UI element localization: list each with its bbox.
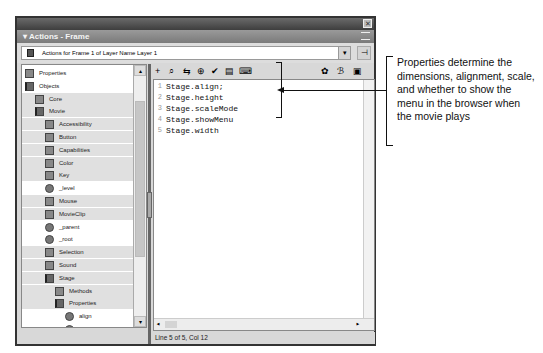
toolbox-item-label: Button (59, 131, 76, 143)
toolbox-item-label: _root (59, 233, 73, 245)
toolbox-item[interactable]: Properties (22, 67, 134, 79)
book-open-icon (45, 274, 54, 283)
scroll-up-icon[interactable]: ▴ (134, 65, 146, 76)
code-line[interactable]: 2Stage.height (154, 92, 354, 103)
add-statement-icon[interactable]: + (155, 64, 160, 78)
toolbox-item-label: Color (59, 157, 73, 169)
panel-menu-icon[interactable] (361, 32, 370, 40)
status-bar: Line 5 of 5, Col 12 (153, 332, 375, 344)
callout-bracket (386, 56, 393, 146)
book-open-icon (35, 107, 44, 116)
toolbox-item[interactable]: _level (22, 182, 134, 194)
toolbox-item-label: MovieClip (59, 208, 85, 220)
auto-format-icon[interactable]: ▤ (225, 64, 234, 78)
toolbox-scrollbar[interactable]: ▴ ▾ (133, 65, 146, 327)
book-closed-icon (45, 146, 54, 155)
code-line[interactable]: 4Stage.showMenu (154, 114, 354, 125)
toolbox-item-label: Key (59, 169, 69, 181)
property-icon (65, 325, 74, 328)
toolbox-item[interactable]: _root (22, 233, 134, 245)
toolbox-scroll-thumb[interactable] (135, 101, 145, 257)
toolbox-item-label: Objects (39, 80, 59, 92)
debug-options-icon[interactable]: ✿ (321, 64, 329, 78)
book-closed-icon (45, 120, 54, 129)
script-editor[interactable]: ◂ ▸ 1Stage.align;2Stage.height3Stage.sca… (153, 79, 375, 331)
scroll-right-icon[interactable]: ▸ (356, 319, 360, 330)
panel-title-bar[interactable]: ▾ Actions - Frame (17, 30, 374, 43)
toolbox-item[interactable]: Stage (22, 272, 134, 284)
code-line[interactable]: 5Stage.width (154, 125, 354, 136)
toolbox-item[interactable]: Properties (22, 297, 134, 309)
editor-vertical-scrollbar[interactable] (363, 80, 374, 318)
book-open-icon (55, 299, 64, 308)
book-closed-icon (55, 287, 64, 296)
pane-splitter[interactable] (148, 64, 151, 344)
book-closed-icon (45, 261, 54, 270)
toolbox-item[interactable]: Objects (22, 80, 134, 92)
toolbox-item[interactable]: Selection (22, 246, 134, 258)
panel-top-bar: ✕ (17, 18, 374, 30)
reference-icon[interactable]: ▣ (353, 64, 362, 78)
toolbox-item-label: Stage (59, 272, 75, 284)
find-icon[interactable]: ⌕ (169, 64, 174, 78)
line-number: 4 (156, 114, 162, 125)
toolbox-item-label: Methods (69, 285, 92, 297)
actions-toolbox: EventswidthshowMenuscaleModeheightalignP… (21, 64, 147, 328)
toolbox-item[interactable]: align (22, 310, 134, 322)
toolbox-item[interactable]: height (22, 323, 134, 328)
toolbox-item-label: Sound (59, 259, 76, 271)
toolbox-item[interactable]: Accessibility (22, 118, 134, 130)
toolbox-item[interactable]: Core (22, 93, 134, 105)
line-number: 2 (156, 92, 162, 103)
toolbox-item-label: Capabilities (59, 144, 90, 156)
scroll-left-icon[interactable]: ◂ (156, 319, 160, 330)
toolbox-item-label: align (79, 310, 92, 322)
toolbox-item[interactable]: Movie (22, 105, 134, 117)
callout-leader-line (282, 90, 387, 91)
toolbox-item-label: Selection (59, 246, 84, 258)
actions-panel: ✕ ▾ Actions - Frame Actions for Frame 1 … (15, 16, 376, 346)
code-text: Stage.showMenu (166, 114, 233, 125)
pin-script-button[interactable]: ⊣ (357, 46, 371, 60)
editor-toolbar: +⌕⇆⊕✔▤⌨✿ℬ▣ (153, 64, 375, 78)
book-closed-icon (45, 133, 54, 142)
code-text: Stage.height (166, 92, 224, 103)
chevron-down-icon[interactable]: ▾ (338, 47, 350, 59)
book-closed-icon (45, 171, 54, 180)
code-hint-icon[interactable]: ⌨ (239, 64, 252, 78)
book-closed-icon (45, 197, 54, 206)
toolbox-item[interactable]: Key (22, 169, 134, 181)
toolbox-item[interactable]: Sound (22, 259, 134, 271)
line-number: 3 (156, 103, 162, 114)
toolbox-item-label: Movie (49, 105, 65, 117)
toolbox-item[interactable]: _parent (22, 221, 134, 233)
close-icon[interactable]: ✕ (363, 19, 372, 28)
toolbox-item[interactable]: Color (22, 157, 134, 169)
code-text: Stage.align; (166, 81, 224, 92)
property-icon (45, 223, 54, 232)
editor-horizontal-scrollbar[interactable]: ◂ ▸ (154, 318, 374, 330)
toolbox-item[interactable]: Capabilities (22, 144, 134, 156)
replace-icon[interactable]: ⇆ (183, 64, 191, 78)
toolbox-item[interactable]: Mouse (22, 195, 134, 207)
toolbox-item-label: height (79, 323, 95, 328)
target-path-icon[interactable]: ⊕ (197, 64, 205, 78)
property-icon (45, 184, 54, 193)
check-syntax-icon[interactable]: ✔ (211, 64, 219, 78)
book-closed-icon (45, 248, 54, 257)
view-options-icon[interactable]: ℬ (337, 64, 344, 78)
splitter-grip[interactable] (147, 192, 152, 218)
toolbox-item[interactable]: Methods (22, 285, 134, 297)
toolbox-item-label: _parent (59, 221, 79, 233)
code-text: Stage.scaleMode (166, 103, 238, 114)
toolbox-item-label: Core (49, 93, 62, 105)
toolbox-item[interactable]: MovieClip (22, 208, 134, 220)
editor-hscroll-thumb[interactable] (165, 321, 177, 328)
book-closed-icon (35, 95, 44, 104)
book-open-icon (25, 82, 34, 91)
scroll-down-icon[interactable]: ▾ (134, 316, 146, 327)
toolbox-item[interactable]: Button (22, 131, 134, 143)
code-line[interactable]: 3Stage.scaleMode (154, 103, 354, 114)
arrow-left-icon (277, 87, 284, 93)
script-target-select[interactable]: Actions for Frame 1 of Layer Name Layer … (21, 46, 351, 60)
